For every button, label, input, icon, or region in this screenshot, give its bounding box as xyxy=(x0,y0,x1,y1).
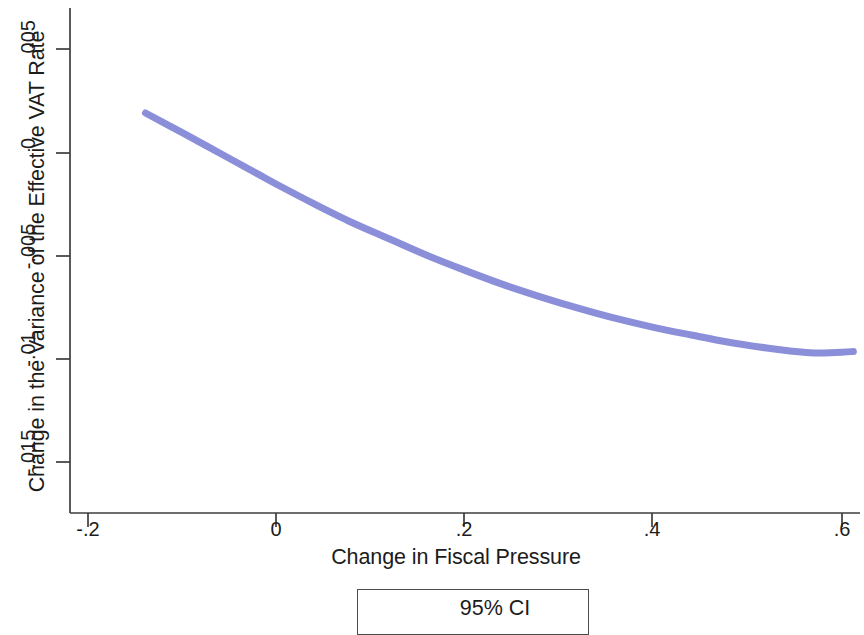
x-axis-title: Change in Fiscal Pressure xyxy=(70,545,842,570)
x-tick-label-2: .2 xyxy=(424,518,504,541)
y-tick-label-0: .005 xyxy=(17,0,40,85)
y-tick-label-4: -.015 xyxy=(17,408,40,498)
x-tick-label-3: .4 xyxy=(612,518,692,541)
x-tick-label-1: 0 xyxy=(236,518,316,541)
y-tick-label-2: -.005 xyxy=(17,202,40,292)
y-tick-label-1: 0 xyxy=(17,99,40,189)
x-tick-label-4: .6 xyxy=(802,518,864,541)
ci-curve-line xyxy=(145,113,853,353)
y-axis-ticks xyxy=(56,49,70,462)
legend-label-ci: 95% CI xyxy=(357,596,589,621)
y-tick-label-3: -.01 xyxy=(17,305,40,395)
x-tick-label-0: -.2 xyxy=(48,518,128,541)
